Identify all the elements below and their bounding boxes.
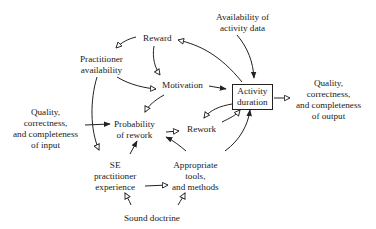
- edge-prob-rework: [166, 131, 179, 132]
- edge-se-prob: [130, 141, 137, 154]
- edge-practitioner-motivation: [117, 77, 156, 89]
- edge-data-duration: [237, 35, 254, 78]
- node-rework: Rework: [187, 124, 216, 135]
- edge-input-prob: [85, 124, 110, 125]
- edge-motivation-duration: [209, 86, 226, 89]
- edge-reward-practitioner: [116, 37, 136, 48]
- node-availability-activity-data: Availability of activity data: [216, 12, 269, 34]
- edge-doctrine-se: [125, 193, 131, 205]
- node-practitioner-availability: Practitioner availability: [80, 54, 123, 76]
- edge-rework-duration: [222, 110, 240, 122]
- node-quality-input: Quality, correctness, and completeness o…: [13, 107, 78, 151]
- node-probability-rework: Probability of rework: [114, 119, 155, 141]
- node-motivation: Motivation: [162, 80, 203, 91]
- node-activity-duration: Activity duration: [232, 84, 273, 110]
- node-reward: Reward: [143, 33, 172, 44]
- edge-se-tools: [145, 185, 168, 186]
- edge-tools-prob: [166, 137, 186, 151]
- edge-doctrine-tools: [178, 193, 185, 205]
- node-sound-doctrine: Sound doctrine: [124, 213, 180, 224]
- node-quality-output: Quality, correctness, and completeness o…: [296, 78, 361, 122]
- edge-reward-motivation: [153, 46, 160, 75]
- edge-duration-rework: [204, 104, 232, 118]
- edge-motivation-prob: [145, 95, 164, 112]
- node-appropriate-tools-methods: Appropriate tools, and methods: [172, 160, 219, 193]
- node-se-practitioner-experience: SE practitioner experience: [94, 160, 136, 193]
- edge-duration-reward: [178, 40, 242, 82]
- edge-tools-duration: [225, 110, 250, 151]
- edge-practitioner-se: [92, 77, 99, 150]
